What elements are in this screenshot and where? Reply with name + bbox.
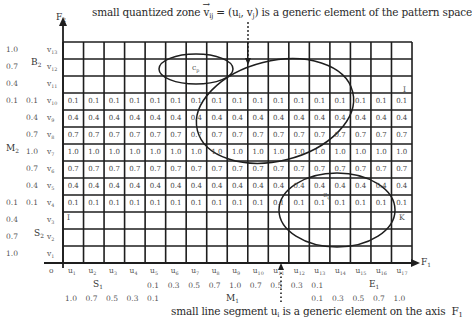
grid-cell-value: 1.0 — [125, 148, 146, 156]
marker-i-top-right: I — [403, 85, 406, 94]
grid-cell-value: 0.1 — [125, 97, 146, 105]
row-sub: 1 — [51, 253, 54, 259]
row-membership-m2: 1.0 — [26, 147, 38, 156]
grid-cell-value: 0.4 — [227, 182, 248, 190]
grid-cell-value: 0.1 — [84, 97, 105, 105]
grid-cell-value: 0.1 — [350, 199, 371, 207]
grid-cell-value: 0.4 — [63, 182, 84, 190]
set-sub: 2 — [15, 148, 19, 154]
column-label-u9: u9 — [232, 266, 240, 276]
grid-cell-value: 0.1 — [166, 97, 187, 105]
grid-cell-value: 0.4 — [268, 182, 289, 190]
grid-cell-value: 0.7 — [268, 131, 289, 139]
row-sub: 9 — [51, 117, 54, 123]
column-sub: 8 — [217, 270, 220, 276]
grid-cell-value: 0.1 — [63, 199, 84, 207]
column-label-u13: u13 — [314, 266, 325, 276]
grid-cell-value: 0.7 — [84, 165, 105, 173]
column-label-u17: u17 — [396, 266, 407, 276]
column-sub: 12 — [299, 270, 305, 276]
grid-cell-value: 0.1 — [350, 97, 371, 105]
row-sub: 10 — [51, 100, 57, 106]
column-membership-m1: 0.7 — [250, 281, 262, 290]
row-label-v2: v2 — [47, 232, 54, 242]
grid-cell-value: 0.4 — [391, 114, 412, 122]
grid-cell-value: 0.7 — [330, 131, 351, 139]
grid-cell-value: 0.4 — [63, 114, 84, 122]
grid-cell-value: 0.1 — [186, 199, 207, 207]
grid-cell-value: 0.4 — [371, 182, 392, 190]
grid-cell-value: 0.4 — [84, 182, 105, 190]
row-membership-m2: 0.7 — [26, 164, 38, 173]
set-sub: 2 — [38, 62, 42, 68]
row-sub: 4 — [51, 202, 54, 208]
fuzzy-set-m2-label: M2 — [6, 143, 19, 154]
column-membership-s1: 0.7 — [86, 294, 98, 303]
grid-cell-value: 0.1 — [207, 97, 228, 105]
cluster-center-cp: cp — [192, 63, 199, 73]
grid-cell-value: 0.1 — [145, 97, 166, 105]
grid-cell-value: 0.4 — [248, 182, 269, 190]
column-label-u15: u15 — [355, 266, 366, 276]
row-sub: 13 — [51, 49, 57, 55]
column-label-u16: u16 — [376, 266, 387, 276]
fuzzy-set-b2-label: B2 — [31, 57, 41, 68]
grid-cell-value: 0.7 — [104, 165, 125, 173]
row-label-v8: v8 — [47, 130, 54, 140]
grid-cell-value: 0.4 — [125, 182, 146, 190]
column-membership-e1: 0.3 — [332, 294, 344, 303]
fuzzy-set-s1-label: S1 — [93, 279, 103, 290]
row-sub: 7 — [51, 151, 54, 157]
column-sub: 16 — [381, 270, 387, 276]
column-membership-s1: 0.1 — [147, 294, 159, 303]
grid-cell-value: 1.0 — [104, 148, 125, 156]
grid-cell-value: 0.1 — [371, 199, 392, 207]
grid-cell-value: 0.7 — [268, 165, 289, 173]
grid-cell-value: 0.1 — [309, 97, 330, 105]
grid-cell-value: 0.1 — [309, 199, 330, 207]
column-label-u8: u8 — [212, 266, 220, 276]
column-membership-m1: 0.1 — [311, 281, 323, 290]
column-membership-m1: 0.5 — [270, 281, 282, 290]
column-label-u10: u10 — [253, 266, 264, 276]
grid-cell-value: 0.4 — [268, 114, 289, 122]
center-sub: ij — [327, 194, 330, 200]
grid-cell-value: 0.1 — [371, 97, 392, 105]
row-label-v5: v5 — [47, 181, 54, 191]
row-membership-m2: 0.7 — [26, 130, 38, 139]
grid-cell-value: 0.1 — [330, 97, 351, 105]
row-membership-s2: 0.4 — [6, 215, 18, 224]
row-label-v1: v1 — [47, 249, 54, 259]
grid-cell-value: 0.7 — [350, 131, 371, 139]
set-name: M — [6, 143, 15, 153]
column-sub: 4 — [134, 270, 137, 276]
grid-cell-value: 0.4 — [104, 114, 125, 122]
grid-cell-value: 1.0 — [371, 148, 392, 156]
row-membership-b2: 0.1 — [6, 96, 18, 105]
grid-cell-value: 0.4 — [207, 114, 228, 122]
grid-cell-value: 0.1 — [289, 97, 310, 105]
column-sub: 3 — [114, 270, 117, 276]
grid-cell-value: 0.1 — [268, 199, 289, 207]
column-label-u4: u4 — [130, 266, 138, 276]
grid-cell-value: 0.7 — [145, 131, 166, 139]
grid-cell-value: 0.4 — [309, 182, 330, 190]
grid-cell-value: 0.1 — [330, 199, 351, 207]
grid-cell-value: 0.1 — [104, 97, 125, 105]
row-sub: 5 — [51, 185, 54, 191]
grid-cell-value: 1.0 — [309, 148, 330, 156]
grid-cell-value: 0.1 — [248, 199, 269, 207]
grid-cell-value: 0.4 — [207, 182, 228, 190]
grid-cell-value: 0.1 — [207, 199, 228, 207]
grid-cell-value: 0.7 — [125, 131, 146, 139]
grid-cell-value: 0.4 — [145, 114, 166, 122]
column-membership-e1: 0.1 — [311, 294, 323, 303]
set-name: M — [226, 293, 235, 303]
grid-cell-value: 0.4 — [104, 182, 125, 190]
grid-cell-value: 1.0 — [350, 148, 371, 156]
grid-cell-value: 0.7 — [84, 131, 105, 139]
column-sub: 13 — [319, 270, 325, 276]
grid-cell-value: 1.0 — [84, 148, 105, 156]
column-label-u1: u1 — [68, 266, 76, 276]
row-label-v9: v9 — [47, 113, 54, 123]
